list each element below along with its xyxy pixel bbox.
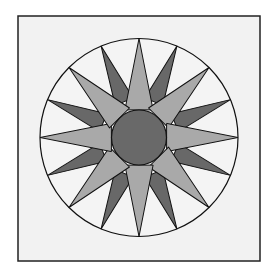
compass — [40, 39, 238, 237]
mariners-compass-diagram — [0, 0, 273, 273]
center-circle — [112, 110, 167, 165]
